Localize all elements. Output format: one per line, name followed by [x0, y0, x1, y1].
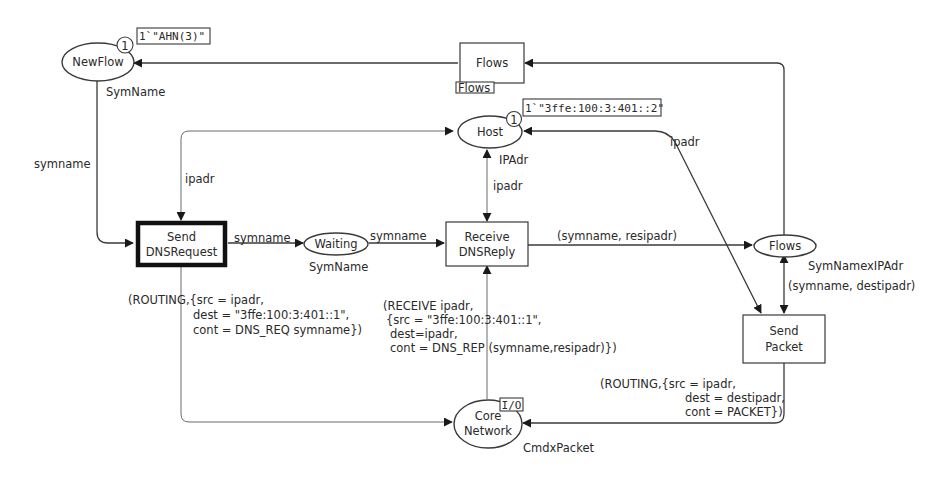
svg-text:cont = PACKET}): cont = PACKET}): [685, 405, 783, 419]
arc-flows-to-flows-transition: [525, 63, 784, 238]
flows-colset: SymNamexIPAdr: [808, 259, 903, 273]
svg-text:1`"AHN(3)": 1`"AHN(3)": [139, 30, 205, 43]
svg-text:dest=ipadr,: dest=ipadr,: [390, 327, 458, 341]
flows-subpage-tag[interactable]: Flows: [456, 81, 494, 95]
transition-send-packet[interactable]: Send Packet: [743, 315, 825, 363]
waiting-colset: SymName: [309, 260, 368, 274]
svg-text:{src = "3ffe:100:3:401::1",: {src = "3ffe:100:3:401::1",: [386, 313, 542, 327]
place-waiting-name: Waiting: [314, 237, 357, 251]
svg-text:cont = DNS_REQ symname}): cont = DNS_REQ symname}): [193, 323, 362, 337]
svg-text:(RECEIVE ipadr,: (RECEIVE ipadr,: [383, 299, 473, 313]
svg-text:Core: Core: [475, 409, 502, 423]
host-colset: IPAdr: [499, 153, 529, 167]
svg-text:Network: Network: [464, 424, 512, 438]
svg-text:(ROUTING,{src = ipadr,: (ROUTING,{src = ipadr,: [128, 293, 264, 307]
host-marking: 1`"3ffe:100:3:401::2": [523, 99, 664, 116]
inscription-receive-to-flows: (symname, resipadr): [557, 229, 677, 243]
svg-text:Packet: Packet: [765, 340, 803, 354]
newflow-colset: SymName: [106, 85, 165, 99]
place-flows[interactable]: Flows: [754, 235, 816, 257]
transition-flows[interactable]: Flows: [460, 43, 524, 83]
place-flows-name: Flows: [769, 239, 801, 253]
transition-flows-name: Flows: [476, 56, 508, 70]
arc-newflow-to-send-dnsrequest: [97, 80, 133, 243]
inscription-send-to-waiting: symname: [234, 231, 291, 245]
core-network-colset: CmdxPacket: [523, 441, 594, 455]
core-network-io-tag: I/O: [500, 398, 523, 412]
inscription-host-receive: ipadr: [493, 179, 523, 193]
svg-text:Flows: Flows: [458, 81, 490, 95]
transition-receive-dnsreply[interactable]: Receive DNSReply: [446, 222, 528, 266]
svg-text:Send: Send: [167, 230, 196, 244]
inscription-sendpacket-to-network: (ROUTING,{src = ipadr, dest = destipadr,…: [600, 377, 785, 419]
newflow-token-count: 1: [117, 37, 133, 53]
transition-send-dnsrequest[interactable]: Send DNSRequest: [138, 223, 225, 265]
svg-text:1: 1: [510, 113, 517, 127]
inscription-send-to-network: (ROUTING,{src = ipadr, dest = "3ffe:100:…: [128, 293, 362, 337]
place-host-name: Host: [477, 125, 504, 139]
svg-text:I/O: I/O: [502, 399, 522, 412]
arc-host-send-packet: [524, 131, 761, 313]
petri-net-canvas: NewFlow 1 1`"AHN(3)" SymName Host 1 1`"3…: [0, 0, 947, 481]
host-token-count: 1: [507, 112, 522, 127]
svg-text:1`"3ffe:100:3:401::2": 1`"3ffe:100:3:401::2": [525, 102, 664, 115]
svg-text:Receive: Receive: [464, 230, 509, 244]
svg-text:(ROUTING,{src = ipadr,: (ROUTING,{src = ipadr,: [600, 377, 736, 391]
svg-text:DNSReply: DNSReply: [459, 245, 516, 259]
inscription-network-to-receive: (RECEIVE ipadr, {src = "3ffe:100:3:401::…: [383, 299, 617, 355]
svg-text:DNSRequest: DNSRequest: [146, 245, 218, 259]
inscription-host-sendpacket: ipadr: [670, 135, 700, 149]
arc-host-send-dnsrequest: [181, 131, 453, 220]
svg-text:dest = destipadr,: dest = destipadr,: [685, 391, 785, 405]
inscription-host-to-send: ipadr: [185, 172, 215, 186]
svg-text:dest = "3ffe:100:3:401::1",: dest = "3ffe:100:3:401::1",: [193, 308, 349, 322]
newflow-marking: 1`"AHN(3)": [137, 28, 210, 44]
inscription-waiting-to-receive: symname: [370, 229, 427, 243]
inscription-flows-sendpacket: (symname, destipadr): [788, 279, 915, 293]
place-waiting[interactable]: Waiting: [304, 233, 368, 255]
svg-text:1: 1: [121, 39, 128, 53]
inscription-newflow-to-send: symname: [34, 157, 91, 171]
svg-text:cont = DNS_REP (symname,resipa: cont = DNS_REP (symname,resipadr)}): [390, 341, 617, 355]
place-newflow-name: NewFlow: [72, 55, 123, 69]
svg-text:Send: Send: [770, 324, 799, 338]
